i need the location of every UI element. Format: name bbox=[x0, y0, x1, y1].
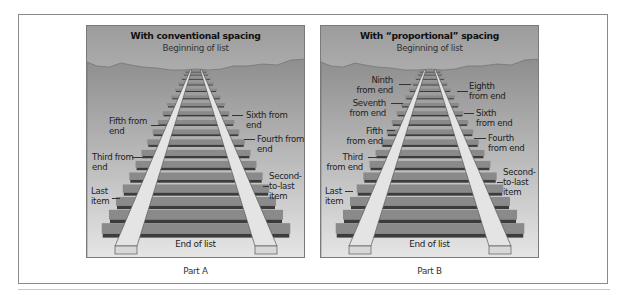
leader-line bbox=[391, 103, 403, 104]
leader-line bbox=[464, 113, 474, 114]
caption-part-a: Part A bbox=[86, 266, 305, 276]
panel-a-beginning-label: Beginning of list bbox=[87, 43, 304, 53]
leader-line bbox=[244, 139, 255, 140]
label-sixth-from-end-b: Sixthfrom end bbox=[476, 108, 513, 128]
panel-a-end-label: End of list bbox=[87, 239, 304, 249]
panel-part-a: With conventional spacing Beginning of l… bbox=[86, 25, 305, 258]
caption-part-b: Part B bbox=[320, 266, 539, 276]
label-seventh-from-end: Seventhfrom end bbox=[349, 98, 386, 118]
bottom-rule bbox=[18, 289, 610, 290]
label-ninth-from-end: Ninthfrom end bbox=[356, 75, 393, 95]
leader-line bbox=[132, 157, 144, 158]
label-second-to-last-item: Second-to-lastitem bbox=[269, 171, 302, 201]
panel-b-beginning-label: Beginning of list bbox=[321, 43, 538, 53]
leader-line bbox=[387, 130, 395, 131]
panel-a-title: With conventional spacing bbox=[87, 30, 304, 41]
label-fifth-from-end-b: Fifthfrom end bbox=[346, 126, 383, 146]
label-sixth-from-end: Sixth fromend bbox=[246, 110, 287, 130]
leader-line bbox=[232, 115, 243, 116]
leader-line bbox=[497, 182, 503, 183]
label-fifth-from-end: Fifth fromend bbox=[109, 116, 147, 136]
leader-line bbox=[345, 191, 353, 192]
leader-line bbox=[457, 91, 468, 92]
label-second-to-last-item-b: Second-to-lastitem bbox=[503, 167, 536, 197]
label-last-item-b: Lastitem bbox=[325, 186, 343, 206]
label-fourth-from-end-b: Fourthfrom end bbox=[488, 133, 525, 153]
leader-line bbox=[112, 198, 120, 199]
leader-line bbox=[399, 84, 411, 85]
panel-b-title: With “proportional” spacing bbox=[321, 30, 538, 41]
leader-line bbox=[474, 138, 486, 139]
label-eighth-from-end: Eighthfrom end bbox=[469, 81, 506, 101]
leader-line bbox=[263, 186, 269, 187]
leader-line bbox=[151, 125, 160, 126]
label-last-item: Lastitem bbox=[91, 186, 109, 206]
label-fourth-from-end: Fourth fromend bbox=[257, 134, 304, 154]
label-third-from-end: Third fromend bbox=[92, 152, 134, 172]
panel-b-end-label: End of list bbox=[321, 239, 538, 249]
label-third-from-end-b: Thirdfrom end bbox=[326, 152, 363, 172]
panel-part-b: With “proportional” spacing Beginning of… bbox=[320, 25, 539, 258]
leader-line bbox=[368, 157, 378, 158]
